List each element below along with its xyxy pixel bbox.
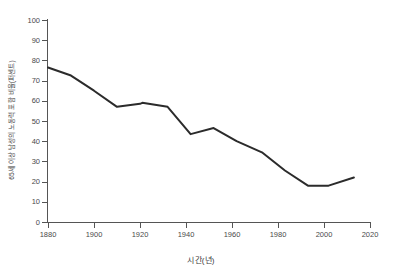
chart-figure: 65세 이상 남성의 노동력 포함 비율(퍼센트) 0 10 20 30 40 …	[0, 0, 402, 275]
x-axis-label: 시간(년)	[0, 254, 402, 265]
chart-plot-svg	[0, 0, 402, 275]
data-series-line	[48, 67, 354, 185]
